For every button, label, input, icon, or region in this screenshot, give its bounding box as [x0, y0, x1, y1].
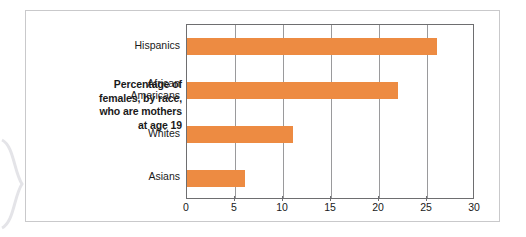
- bar-whites: [187, 126, 293, 143]
- x-tick-mark-5: [234, 196, 235, 201]
- category-label-line: African: [56, 78, 180, 90]
- x-tick-label-0: 0: [183, 201, 189, 213]
- x-axis-tick-labels: 051015202530: [186, 201, 474, 217]
- plot-area: [186, 24, 474, 199]
- category-label-line: Whites: [56, 128, 180, 140]
- x-tick-label-30: 30: [468, 201, 480, 213]
- category-label-whites: Whites: [56, 128, 180, 140]
- x-tick-label-5: 5: [231, 201, 237, 213]
- category-axis-labels: HispanicsAfricanAmericansWhitesAsians: [56, 24, 180, 199]
- category-label-asians: Asians: [56, 171, 180, 183]
- x-tick-label-20: 20: [372, 201, 384, 213]
- bars-layer: [187, 25, 473, 198]
- x-tick-mark-15: [330, 196, 331, 201]
- category-label-line: Americans: [56, 90, 180, 102]
- x-tick-mark-20: [378, 196, 379, 201]
- x-tick-label-15: 15: [324, 201, 336, 213]
- category-label-line: Asians: [56, 171, 180, 183]
- x-tick-label-25: 25: [420, 201, 432, 213]
- category-label-hispanics: Hispanics: [56, 40, 180, 52]
- category-label-line: Hispanics: [56, 40, 180, 52]
- x-tick-mark-10: [282, 196, 283, 201]
- x-tick-label-10: 10: [276, 201, 288, 213]
- x-tick-mark-25: [426, 196, 427, 201]
- category-label-african-americans: AfricanAmericans: [56, 78, 180, 101]
- bar-african-americans: [187, 82, 398, 99]
- bar-hispanics: [187, 38, 437, 55]
- bar-asians: [187, 170, 245, 187]
- scan-artifact-bracket: [0, 138, 26, 230]
